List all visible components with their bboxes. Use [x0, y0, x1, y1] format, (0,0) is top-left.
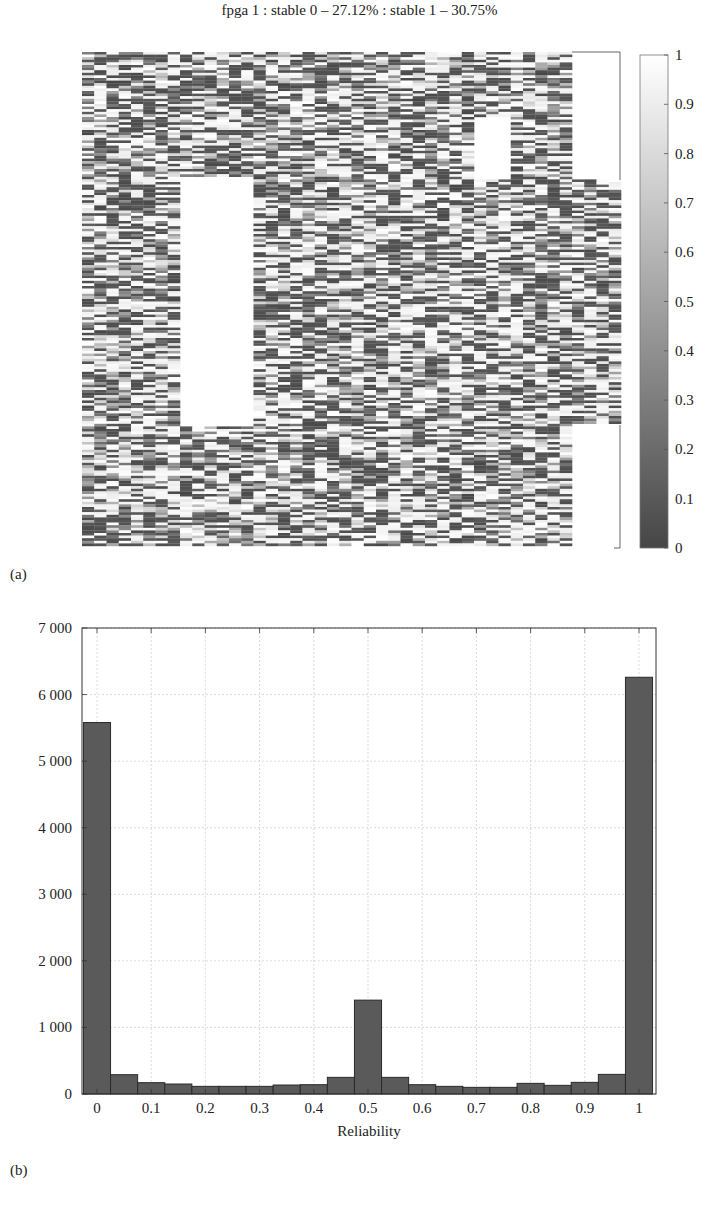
y-tick-label: 1 000 [38, 1019, 72, 1035]
x-tick-label: 0.7 [467, 1100, 486, 1116]
histogram-bar [598, 1074, 625, 1094]
x-tick-label: 0.6 [413, 1100, 432, 1116]
y-tick-label: 7 000 [38, 620, 72, 636]
x-tick-label: 0.4 [304, 1100, 323, 1116]
histogram-bar [382, 1077, 409, 1094]
x-tick-label: 0.5 [359, 1100, 378, 1116]
histogram-bar [111, 1075, 138, 1094]
histogram-bar [165, 1084, 192, 1094]
histogram-bar [436, 1086, 463, 1094]
histogram-bar [327, 1077, 354, 1094]
histogram-chart: 00.10.20.30.40.50.60.70.80.9101 0002 000… [0, 0, 719, 1214]
x-axis-label: Reliability [337, 1123, 401, 1139]
histogram-bar [625, 677, 652, 1094]
histogram-bar [83, 723, 110, 1094]
y-tick-label: 3 000 [38, 886, 72, 902]
x-tick-label: 0.3 [250, 1100, 269, 1116]
y-tick-label: 4 000 [38, 820, 72, 836]
x-tick-label: 0.1 [142, 1100, 161, 1116]
y-tick-label: 6 000 [38, 687, 72, 703]
y-tick-label: 2 000 [38, 953, 72, 969]
y-tick-label: 5 000 [38, 753, 72, 769]
histogram-bar [354, 1000, 381, 1094]
x-tick-label: 0.8 [521, 1100, 540, 1116]
y-tick-label: 0 [65, 1086, 73, 1102]
x-tick-label: 0.2 [196, 1100, 215, 1116]
x-tick-label: 1 [635, 1100, 643, 1116]
x-tick-label: 0.9 [575, 1100, 594, 1116]
panel-b-label: (b) [10, 1162, 28, 1179]
histogram-bar [544, 1085, 571, 1094]
histogram-bar [273, 1085, 300, 1094]
histogram-bar [490, 1087, 517, 1094]
x-tick-label: 0 [93, 1100, 101, 1116]
histogram-bar [219, 1086, 246, 1094]
